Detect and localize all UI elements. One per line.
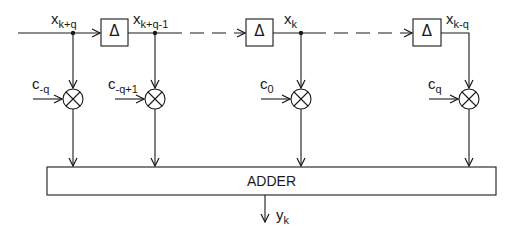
multiplier-3 [291,89,311,109]
multiplier-2 [145,89,165,109]
adder-label: ADDER [47,167,496,195]
multiplier-4 [459,89,479,109]
multiplier-1 [63,89,83,109]
coef-label-2: c-q+1 [108,76,138,95]
signal-label-3: xk [284,11,297,30]
junction-dot [299,31,303,35]
coef-label-4: cq [428,76,442,95]
signal-label-4: xk-q [446,11,469,30]
delay-symbol: Δ [413,24,441,39]
delay-symbol: Δ [246,24,273,39]
signal-label-1: xk+q [51,11,77,30]
output-label: yk [276,207,289,226]
delay-symbol: Δ [101,24,128,39]
junction-dot [153,31,157,35]
junction-dot [71,31,75,35]
coef-label-1: c-q [32,76,49,95]
tap-line-4 [441,33,469,88]
signal-label-2: xk+q-1 [133,11,168,30]
coef-label-3: c0 [260,76,274,95]
